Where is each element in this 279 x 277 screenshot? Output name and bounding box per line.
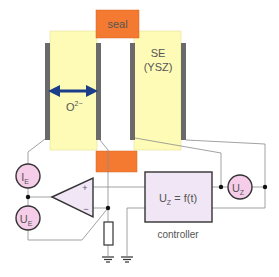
junction-dot	[219, 185, 223, 189]
electrode-inner-left	[96, 43, 101, 140]
junction-dot	[263, 185, 267, 189]
electrode-inner-right	[130, 43, 135, 140]
controller-caption: controller	[157, 229, 199, 240]
electrode-outer-right	[181, 43, 186, 140]
diagram-canvas: seal O2− SE (YSZ)	[0, 0, 279, 277]
electrode-outer-left	[45, 43, 50, 140]
se-label-line2: (YSZ)	[144, 61, 173, 73]
junction-dot	[106, 206, 110, 210]
seal-bottom	[96, 151, 137, 172]
seal-label: seal	[107, 18, 127, 30]
controller-box: UZ = f(t)	[145, 172, 212, 222]
se-label-line1: SE	[151, 47, 166, 59]
opamp-plus: +	[82, 183, 87, 193]
current-source-ie: IE	[16, 164, 40, 188]
ground-icon	[102, 257, 114, 262]
opamp-minus: −	[83, 204, 88, 214]
ground-icon	[121, 257, 133, 262]
voltage-source-uz: UZ	[228, 175, 252, 199]
svg-text:UZ = f(t): UZ = f(t)	[159, 192, 197, 206]
voltage-source-ue: UE	[16, 206, 40, 230]
junction-dot	[26, 195, 30, 199]
op-amp: + −	[52, 178, 93, 217]
resistor	[104, 222, 113, 245]
